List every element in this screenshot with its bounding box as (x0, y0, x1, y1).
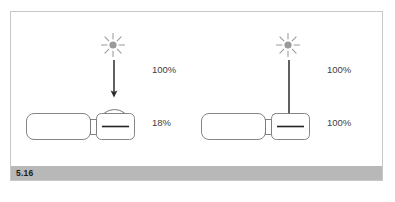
label-right-incoming: 100% (327, 64, 351, 75)
label-left-incoming: 100% (152, 64, 176, 75)
figure-number: 5.16 (16, 167, 33, 179)
figure-root: 100% 18% 100% 100% 5.16 (0, 0, 395, 202)
label-left-outgoing: 18% (152, 117, 171, 128)
label-right-outgoing: 100% (327, 117, 351, 128)
figure-frame (10, 11, 383, 181)
caption-bar: 5.16 (11, 166, 382, 180)
